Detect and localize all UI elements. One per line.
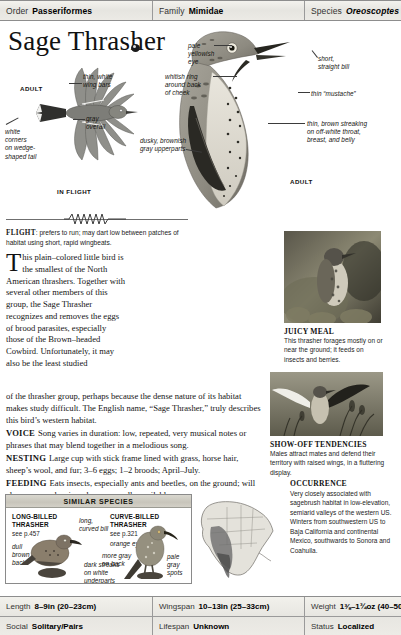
leader-streaking xyxy=(268,123,305,124)
stat-status: Status Localized xyxy=(304,617,401,635)
similar-species-header: SIMILAR SPECIES xyxy=(6,495,191,508)
callout-bill: short, straight bill xyxy=(318,55,349,71)
section-nesting: NESTINGLarge cup with stick frame lined … xyxy=(6,452,264,476)
stat-length: Length 8–9in (20–23cm) xyxy=(0,597,152,616)
perched-adult-bird-illustration xyxy=(150,26,300,216)
similar-species-1-illustration xyxy=(20,525,84,581)
taxonomy-species-value: Oreoscoptes montanus xyxy=(346,6,401,16)
similar-species-2-illustration xyxy=(124,523,186,579)
taxonomy-order-label: Order xyxy=(6,6,28,16)
photo-juicy-meal-image xyxy=(284,231,381,323)
section-voice-text: Song varies in duration: low, repeated, … xyxy=(6,428,246,450)
taxonomy-family-value: Mimidae xyxy=(189,6,224,16)
similar-species-box: SIMILAR SPECIES LONG-BILLED THRASHER see… xyxy=(5,494,192,584)
stat-weight-value: 1⅜–1¾oz (40–50g) xyxy=(340,602,401,611)
stat-lifespan-label: Lifespan xyxy=(159,622,189,631)
photo-show-off-image xyxy=(270,372,383,436)
leader-gray-overall xyxy=(73,119,85,120)
occurrence-text: Very closely associated with sagebrush h… xyxy=(290,489,394,555)
photo-juicy-meal xyxy=(284,231,381,323)
illustration-panel: ADULT IN FLIGHT thin, white wing bars gr… xyxy=(0,20,401,220)
taxonomy-order: Order Passeriformes xyxy=(0,1,152,20)
stat-lifespan-value: Unknown xyxy=(193,622,229,631)
section-voice: VOICESong varies in duration: low, repea… xyxy=(6,427,264,451)
label-in-flight: IN FLIGHT xyxy=(57,188,91,195)
stats-row-1: Length 8–9in (20–23cm) Wingspan 10–13in … xyxy=(0,597,401,616)
flight-divider xyxy=(6,212,188,226)
stats-row-2: Social Solitary/Pairs Lifespan Unknown S… xyxy=(0,616,401,635)
taxonomy-family: Family Mimidae xyxy=(152,1,304,20)
range-map-image xyxy=(197,493,277,579)
leader-whitish-ring xyxy=(213,76,237,77)
flight-note: FLIGHT: prefers to run; may dart low bet… xyxy=(6,228,186,248)
label-adult-perched: ADULT xyxy=(290,178,313,185)
taxonomy-species: Species Oreoscoptes montanus xyxy=(304,1,401,20)
range-map xyxy=(197,493,277,579)
photo-juicy-meal-title: JUICY MEAL xyxy=(284,327,334,336)
stat-social-label: Social xyxy=(6,622,28,631)
section-voice-head: VOICE xyxy=(6,428,35,438)
callout-wing-bars: thin, white wing bars xyxy=(83,73,112,89)
stat-wingspan: Wingspan 10–13in (25–33cm) xyxy=(152,597,304,616)
photo-show-off-tendencies xyxy=(270,372,383,436)
stat-length-value: 8–9in (20–23cm) xyxy=(34,602,96,611)
field-guide-page: Order Passeriformes Family Mimidae Speci… xyxy=(0,0,401,635)
flight-note-heading: FLIGHT xyxy=(6,229,36,237)
stat-status-value: Localized xyxy=(338,622,374,631)
callout-upperparts: dusky, brownish gray upperparts xyxy=(140,137,186,153)
article-paragraph-2: of the thrasher group, perhaps because t… xyxy=(6,390,264,426)
callout-mustache: thin “mustache” xyxy=(311,90,356,98)
callout-streaking: thin, brown streaking on off-white throa… xyxy=(307,120,367,145)
stat-length-label: Length xyxy=(6,602,30,611)
photo-juicy-meal-caption: This thrasher forages mostly on or near … xyxy=(284,336,384,364)
taxonomy-bar: Order Passeriformes Family Mimidae Speci… xyxy=(0,0,401,21)
stat-status-label: Status xyxy=(311,622,334,631)
taxonomy-species-label: Species xyxy=(311,6,342,16)
stats-table: Length 8–9in (20–23cm) Wingspan 10–13in … xyxy=(0,596,401,635)
article-paragraph-1: his plain–colored little bird is the sma… xyxy=(6,252,125,368)
stat-lifespan: Lifespan Unknown xyxy=(152,617,304,635)
stat-wingspan-value: 10–13in (25–33cm) xyxy=(199,602,270,611)
callout-white-corners: white corners on wedge- shaped tail xyxy=(5,128,36,161)
wingbeat-zigzag-icon xyxy=(64,212,126,226)
leader-pale-eye xyxy=(214,45,232,46)
stat-wingspan-label: Wingspan xyxy=(159,602,195,611)
article-body: of the thrasher group, perhaps because t… xyxy=(6,390,264,501)
stat-social-value: Solitary/Pairs xyxy=(32,622,83,631)
section-nesting-head: NESTING xyxy=(6,453,46,463)
taxonomy-family-label: Family xyxy=(159,6,185,16)
photo-show-off-title: SHOW-OFF TENDENCIES xyxy=(270,440,367,449)
photo-show-off-caption: Males attract mates and defend their ter… xyxy=(270,449,396,477)
occurrence-title: OCCURRENCE xyxy=(290,479,347,488)
leader-bill xyxy=(312,50,318,58)
section-feeding-head: FEEDING xyxy=(6,478,47,488)
article-dropcap: T xyxy=(6,252,22,272)
callout-whitish-ring: whitish ring around back of cheek xyxy=(165,73,201,98)
label-adult-in-flight: ADULT xyxy=(20,85,43,92)
article-intro: This plain–colored little bird is the sm… xyxy=(6,252,126,370)
leader-wing-bars xyxy=(69,83,82,84)
callout-pale-eye: pale yellowish eye xyxy=(188,42,214,67)
taxonomy-order-value: Passeriformes xyxy=(32,6,92,16)
stat-weight: Weight 1⅜–1¾oz (40–50g) xyxy=(304,597,401,616)
stat-weight-label: Weight xyxy=(311,602,336,611)
callout-gray-overall: gray overall xyxy=(86,115,105,131)
stat-social: Social Solitary/Pairs xyxy=(0,617,152,635)
leader-mustache xyxy=(298,92,310,93)
